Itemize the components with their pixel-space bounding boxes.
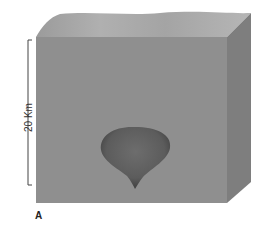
- panel-label: A: [35, 210, 42, 221]
- block-top-face: [36, 12, 251, 37]
- block-side-face: [227, 13, 251, 203]
- block-diagram: [0, 0, 268, 230]
- diagram-figure: 20 Km A: [0, 0, 268, 230]
- scale-bar-label: 20 Km: [23, 98, 34, 138]
